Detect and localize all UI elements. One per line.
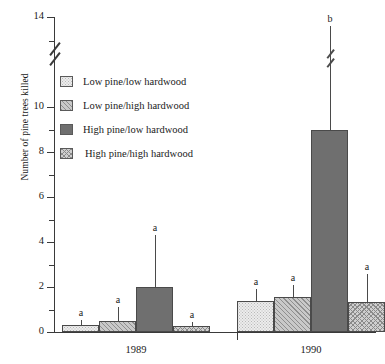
legend-swatch-icon-low-pine-low-hardwood [60, 76, 73, 87]
y-tick-major [47, 332, 54, 333]
legend-label: High pine/low hardwood [83, 124, 188, 135]
significance-label: a [291, 273, 295, 283]
error-bar [192, 322, 193, 327]
y-tick-major [47, 152, 54, 153]
y-tick-label: 2 [4, 281, 44, 291]
significance-label: b [328, 14, 333, 24]
x-axis-label: 1990 [301, 344, 322, 355]
legend-swatch-icon-low-pine-high-hardwood [60, 100, 73, 111]
error-bar [330, 26, 331, 130]
error-bar [367, 274, 368, 302]
plot-area: aaaaaaba [55, 17, 376, 332]
x-axis-label: 1989 [126, 344, 147, 355]
legend-label: Low pine/high hardwood [83, 100, 189, 111]
y-tick-label: 0 [4, 326, 44, 336]
legend-item-high-pine-low-hardwood[interactable]: High pine/low hardwood [60, 119, 193, 139]
bar[interactable] [274, 297, 311, 332]
error-bar [256, 289, 257, 300]
y-tick-major [47, 287, 54, 288]
legend-swatch-icon-high-pine-low-hardwood [60, 124, 73, 135]
y-tick-minor [49, 130, 54, 131]
y-tick-major [47, 107, 54, 108]
y-tick-minor [49, 41, 54, 42]
significance-label: a [254, 277, 258, 287]
significance-label: a [190, 310, 194, 320]
y-tick-major [47, 197, 54, 198]
bar[interactable] [136, 287, 173, 332]
y-tick-label: 6 [4, 191, 44, 201]
legend-item-low-pine-high-hardwood[interactable]: Low pine/high hardwood [60, 95, 193, 115]
bar[interactable] [173, 326, 210, 332]
legend-item-high-pine-high-hardwood[interactable]: High pine/high hardwood [60, 143, 193, 163]
bar[interactable] [62, 325, 99, 332]
legend: Low pine/low hardwood Low pine/high hard… [60, 71, 193, 167]
error-bar [81, 320, 82, 326]
significance-label: a [365, 262, 369, 272]
legend-swatch-icon-high-pine-high-hardwood [60, 148, 73, 159]
legend-item-low-pine-low-hardwood[interactable]: Low pine/low hardwood [60, 71, 193, 91]
bar[interactable] [99, 321, 136, 332]
y-tick-label: 14 [4, 11, 44, 21]
significance-label: a [79, 308, 83, 318]
x-tick [237, 332, 238, 340]
y-tick-minor [49, 310, 54, 311]
y-tick-minor [49, 265, 54, 266]
bar[interactable] [237, 301, 274, 333]
y-tick-label: 10 [4, 101, 44, 111]
legend-label: Low pine/low hardwood [83, 76, 186, 87]
y-tick-major [47, 242, 54, 243]
y-tick-label: 4 [4, 236, 44, 246]
significance-label: a [153, 223, 157, 233]
significance-label: a [116, 295, 120, 305]
error-bar [293, 285, 294, 297]
bar[interactable] [311, 130, 348, 333]
y-tick-label: 8 [4, 146, 44, 156]
y-tick-major [47, 17, 54, 18]
y-tick-minor [49, 220, 54, 221]
y-axis-title: Number of pine trees killed [20, 47, 30, 207]
x-axis-line [54, 332, 376, 333]
legend-label: High pine/high hardwood [85, 148, 193, 159]
error-bar [155, 235, 156, 287]
error-bar [118, 307, 119, 321]
bar[interactable] [348, 302, 385, 332]
y-tick-minor [49, 175, 54, 176]
